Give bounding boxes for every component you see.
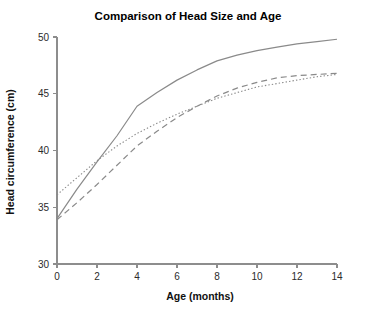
x-tick-label: 6: [174, 271, 180, 282]
x-tick-label: 12: [291, 271, 303, 282]
y-axis-title: Head circumference (cm): [4, 89, 16, 214]
x-tick-label: 8: [214, 271, 220, 282]
series-solid: [57, 39, 337, 218]
y-tick-label: 50: [38, 32, 50, 43]
y-axis: 3035404550: [38, 32, 57, 270]
series-dashed: [57, 73, 337, 219]
series-dotted: [57, 74, 337, 194]
series-layer: [57, 39, 337, 219]
chart-container: Comparison of Head Size and Age Head cir…: [0, 0, 377, 314]
x-tick-label: 10: [251, 271, 263, 282]
x-tick-label: 4: [134, 271, 140, 282]
chart-title: Comparison of Head Size and Age: [95, 10, 282, 22]
x-axis: 02468101214: [54, 264, 343, 282]
x-axis-title: Age (months): [166, 290, 234, 302]
x-tick-label: 0: [54, 271, 60, 282]
y-tick-label: 40: [38, 145, 50, 156]
y-tick-label: 30: [38, 259, 50, 270]
y-tick-label: 35: [38, 202, 50, 213]
y-tick-label: 45: [38, 88, 50, 99]
line-chart: Comparison of Head Size and Age Head cir…: [0, 0, 377, 314]
x-tick-label: 2: [94, 271, 100, 282]
x-tick-label: 14: [331, 271, 343, 282]
